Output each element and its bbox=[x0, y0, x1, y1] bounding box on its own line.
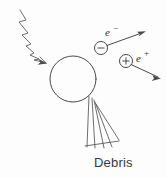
plus-sign-icon bbox=[123, 58, 129, 64]
debris-baseline bbox=[85, 141, 119, 146]
positron-label: e bbox=[136, 52, 141, 64]
positron-trajectory-line bbox=[131, 65, 158, 78]
target-sphere bbox=[50, 56, 96, 102]
debris-ray-fan bbox=[85, 96, 119, 148]
debris-ray bbox=[87, 96, 89, 147]
particle-interaction-figure: e − e + Debris bbox=[0, 0, 167, 178]
debris-ray bbox=[94, 100, 104, 148]
electron-trajectory-line bbox=[107, 33, 143, 46]
figure-canvas: e − e + bbox=[0, 0, 167, 178]
positron-charge-sign: + bbox=[144, 48, 149, 58]
debris-caption: Debris bbox=[94, 155, 133, 170]
electron-charge-sign: − bbox=[113, 23, 118, 33]
wavy-photon-arrow bbox=[19, 10, 47, 65]
debris-ray bbox=[92, 98, 95, 148]
electron-label: e bbox=[105, 26, 110, 38]
